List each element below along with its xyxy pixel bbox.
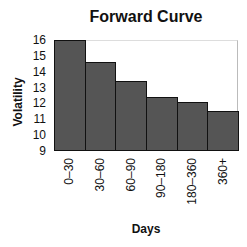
x-tick-label: 180–360 (185, 158, 199, 205)
bar (207, 111, 239, 151)
x-tick-label: 0–30 (62, 158, 76, 185)
x-axis-label: Days (54, 222, 238, 236)
bar (54, 40, 86, 151)
y-tick-label: 12 (20, 97, 46, 109)
y-tick-label: 16 (20, 34, 46, 46)
chart-title: Forward Curve (54, 8, 238, 26)
y-tick-label: 11 (20, 113, 46, 125)
bar (115, 81, 147, 151)
x-tick-label: 90–180 (154, 158, 168, 198)
bar (177, 102, 209, 151)
y-tick-label: 13 (20, 82, 46, 94)
y-tick-label: 15 (20, 50, 46, 62)
y-tick-label: 14 (20, 66, 46, 78)
bar (85, 62, 117, 151)
bar (146, 97, 178, 151)
x-tick-label: 360+ (216, 158, 230, 185)
x-tick-label: 60–90 (124, 158, 138, 191)
y-tick-label: 9 (20, 145, 46, 157)
plot-area (54, 40, 238, 151)
y-tick-label: 10 (20, 129, 46, 141)
x-tick-label: 30–60 (93, 158, 107, 191)
